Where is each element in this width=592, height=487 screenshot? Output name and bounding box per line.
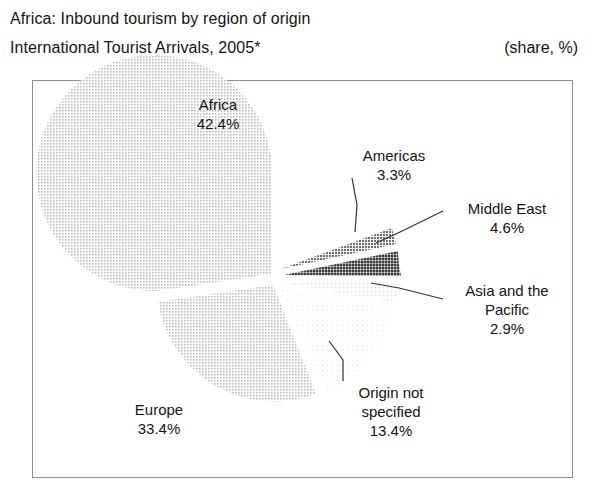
pie-label-americas-name: Americas — [336, 146, 452, 165]
pie-label-africa-value: 42.4% — [158, 114, 278, 133]
chart-title-line-1: Africa: Inbound tourism by region of ori… — [10, 10, 310, 28]
pie-label-asia-pacific-value: 2.9% — [446, 319, 568, 338]
chart-title-line-2: International Tourist Arrivals, 2005* — [10, 39, 261, 57]
pie-label-americas: Americas 3.3% — [336, 146, 452, 184]
pie-label-asia-pacific: Asia and the Pacific 2.9% — [446, 281, 568, 338]
pie-label-europe-value: 33.4% — [104, 419, 214, 438]
chart-unit-note: (share, %) — [504, 39, 578, 57]
pie-label-origin-not-specified: Origin not specified 13.4% — [336, 383, 446, 440]
pie-label-middle-east: Middle East 4.6% — [446, 199, 568, 237]
pie-label-asia-pacific-name-line-1: Asia and the — [446, 281, 568, 300]
pie-label-origin-not-specified-name-line-2: specified — [336, 402, 446, 421]
pie-label-origin-not-specified-value: 13.4% — [336, 421, 446, 440]
pie-label-origin-not-specified-name-line-1: Origin not — [336, 383, 446, 402]
pie-label-europe-name: Europe — [104, 400, 214, 419]
pie-label-middle-east-value: 4.6% — [446, 218, 568, 237]
pie-label-africa-name: Africa — [158, 95, 278, 114]
pie-label-africa: Africa 42.4% — [158, 95, 278, 133]
pie-label-middle-east-name: Middle East — [446, 199, 568, 218]
pie-label-europe: Europe 33.4% — [104, 400, 214, 438]
chart-header: Africa: Inbound tourism by region of ori… — [0, 0, 592, 80]
pie-label-americas-value: 3.3% — [336, 165, 452, 184]
pie-label-asia-pacific-name-line-2: Pacific — [446, 300, 568, 319]
